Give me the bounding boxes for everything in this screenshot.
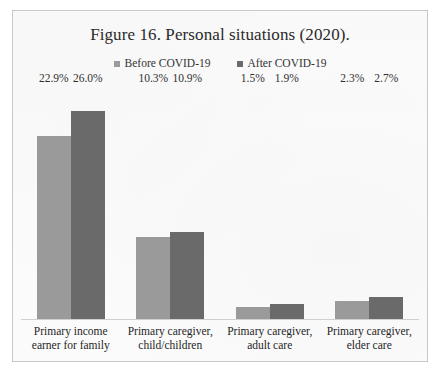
bar-before[interactable]: 22.9%: [37, 87, 71, 319]
bar-before[interactable]: 2.3%: [335, 87, 369, 319]
bar-group: 22.9%26.0%: [21, 87, 121, 319]
category-label-line: child/children: [121, 339, 221, 353]
bar-value-label: 22.9%: [39, 72, 69, 84]
legend-item-after: After COVID-19: [237, 57, 327, 69]
legend-swatch-after-icon: [237, 61, 243, 67]
bar-rect: [236, 307, 270, 319]
bar-before[interactable]: 10.3%: [136, 87, 170, 319]
figure-frame: Figure 16. Personal situations (2020). B…: [12, 10, 428, 362]
bar-value-label: 1.9%: [275, 72, 299, 84]
legend-item-before: Before COVID-19: [114, 57, 211, 69]
bar-rect: [335, 301, 369, 319]
category-label-line: adult care: [220, 339, 320, 353]
bar-after[interactable]: 26.0%: [71, 87, 105, 319]
axis-baseline: [21, 319, 419, 320]
legend-label-after: After COVID-19: [248, 57, 327, 69]
category-axis-labels: Primary incomeearner for familyPrimary c…: [21, 325, 419, 363]
bar-rect: [270, 304, 304, 319]
category-label-line: Primary caregiver,: [320, 325, 420, 339]
bar-rect: [37, 136, 71, 319]
chart-legend: Before COVID-19 After COVID-19: [13, 57, 427, 69]
bar-rect: [170, 232, 204, 319]
chart-title: Figure 16. Personal situations (2020).: [13, 25, 427, 45]
bar-value-label: 26.0%: [73, 72, 103, 84]
category-label: Primary caregiver,adult care: [220, 325, 320, 352]
legend-label-before: Before COVID-19: [125, 57, 211, 69]
bar-group: 2.3%2.7%: [320, 87, 420, 319]
category-label-line: Primary caregiver,: [220, 325, 320, 339]
bar-value-label: 2.7%: [374, 72, 398, 84]
bar-group: 10.3%10.9%: [121, 87, 221, 319]
bar-after[interactable]: 1.9%: [270, 87, 304, 319]
bar-rect: [369, 297, 403, 319]
bar-value-label: 10.9%: [172, 72, 202, 84]
category-label-line: Primary caregiver,: [121, 325, 221, 339]
category-label-line: earner for family: [21, 339, 121, 353]
bar-rect: [136, 237, 170, 319]
bar-rect: [71, 111, 105, 319]
category-label-line: Primary income: [21, 325, 121, 339]
bar-group: 1.5%1.9%: [220, 87, 320, 319]
category-label: Primary caregiver,child/children: [121, 325, 221, 352]
category-label: Primary caregiver,elder care: [320, 325, 420, 352]
category-label: Primary incomeearner for family: [21, 325, 121, 352]
legend-swatch-before-icon: [114, 61, 120, 67]
plot-area: 22.9%26.0%10.3%10.9%1.5%1.9%2.3%2.7%: [21, 87, 419, 319]
bar-before[interactable]: 1.5%: [236, 87, 270, 319]
bar-after[interactable]: 2.7%: [369, 87, 403, 319]
category-label-line: elder care: [320, 339, 420, 353]
bar-value-label: 10.3%: [138, 72, 168, 84]
bar-after[interactable]: 10.9%: [170, 87, 204, 319]
bar-value-label: 1.5%: [241, 72, 265, 84]
bar-value-label: 2.3%: [340, 72, 364, 84]
